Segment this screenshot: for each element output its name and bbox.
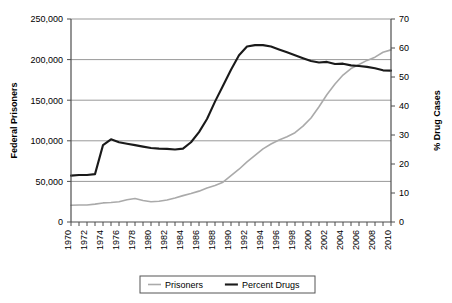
y2-tick-label: 50 [399,72,409,82]
y2-tick-label: 30 [399,130,409,140]
series-line-percent-drugs [71,45,391,176]
x-axis-ticks: 1970197219741976197819801982198419861988… [63,222,393,250]
y-axis-ticks-right: 010203040506070 [391,14,409,227]
legend-label-percent-drugs: Percent Drugs [242,280,300,290]
x-tick-label: 1984 [175,230,185,250]
y2-tick-label: 20 [399,159,409,169]
x-tick-label: 2008 [367,230,377,250]
y2-tick-label: 70 [399,14,409,24]
x-tick-label: 2002 [319,230,329,250]
x-tick-label: 1990 [223,230,233,250]
x-tick-label: 2006 [351,230,361,250]
x-tick-label: 1986 [191,230,201,250]
y-tick-label: 50,000 [35,177,63,187]
y2-tick-label: 60 [399,43,409,53]
x-tick-label: 1982 [159,230,169,250]
x-tick-label: 1976 [111,230,121,250]
grid-lines [71,19,391,181]
y-tick-label: 0 [58,217,63,227]
x-tick-label: 1992 [239,230,249,250]
axis-titles: Federal Prisoners% Drug Cases [9,82,442,158]
x-tick-label: 1996 [271,230,281,250]
y2-tick-label: 10 [399,188,409,198]
x-tick-label: 2000 [303,230,313,250]
x-tick-label: 1994 [255,230,265,250]
chart-container: 050,000100,000150,000200,000250,000 0102… [0,0,452,303]
y2-tick-label: 40 [399,101,409,111]
y-axis-ticks-left: 050,000100,000150,000200,000250,000 [30,14,71,227]
y-tick-label: 150,000 [30,96,63,106]
y-tick-label: 200,000 [30,55,63,65]
x-tick-label: 1972 [79,230,89,250]
y-tick-label: 100,000 [30,136,63,146]
y-axis-title: Federal Prisoners [9,82,19,158]
chart-legend: PrisonersPercent Drugs [140,276,315,293]
y2-axis-title: % Drug Cases [432,90,442,151]
x-tick-label: 2010 [383,230,393,250]
dual-axis-line-chart: 050,000100,000150,000200,000250,000 0102… [0,0,452,303]
x-tick-label: 1998 [287,230,297,250]
x-tick-label: 1980 [143,230,153,250]
y-tick-label: 250,000 [30,14,63,24]
x-tick-label: 1970 [63,230,73,250]
axes [71,19,391,222]
x-tick-label: 1974 [95,230,105,250]
x-tick-label: 1988 [207,230,217,250]
y2-tick-label: 0 [399,217,404,227]
legend-label-prisoners: Prisoners [165,280,204,290]
x-tick-label: 1978 [127,230,137,250]
x-tick-label: 2004 [335,230,345,250]
